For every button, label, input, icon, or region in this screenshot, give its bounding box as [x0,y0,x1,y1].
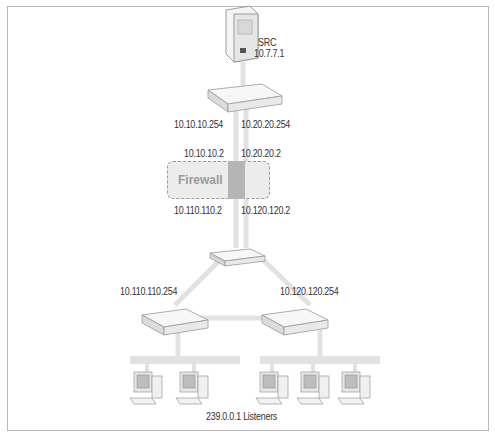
top-router-right-ip: 10.20.20.254 [241,118,290,130]
router-icon-top [208,84,282,112]
listeners-caption: 239.0.0.1 Listeners [206,410,277,422]
firewall-bottom-left-ip: 10.110.110.2 [174,204,222,216]
firewall-top-right-ip: 10.20.20.2 [241,147,281,159]
router-icon-left [142,309,208,335]
network-diagram [0,0,495,436]
top-router-left-ip: 10.10.10.254 [174,118,223,130]
workstation-icons [130,372,370,404]
src-ip: 10.7.7.1 [254,47,284,59]
firewall-label: Firewall [178,173,223,187]
firewall-bottom-right-ip: 10.120.120.2 [241,204,290,216]
firewall-core [228,161,245,199]
right-router-ip: 10.120.120.254 [280,285,338,297]
left-router-ip: 10.110.110.254 [120,285,177,297]
firewall-top-left-ip: 10.10.10.2 [184,147,224,159]
